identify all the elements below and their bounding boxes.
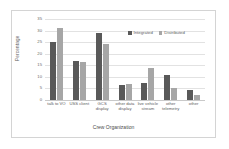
x-axis-tick-label: USS client [68, 101, 91, 112]
x-axis-tick-label: other data display [114, 101, 137, 112]
legend-swatch-icon [159, 31, 163, 35]
legend-label: Integrated [134, 31, 153, 35]
bar-integrated[interactable] [50, 42, 56, 100]
y-axis-tick-label: 25 [37, 40, 42, 44]
legend-entry[interactable]: Integrated [128, 31, 153, 35]
bar-distributed[interactable] [194, 95, 200, 100]
y-axis-tick-label: 15 [37, 63, 42, 67]
y-axis-tick-label: 35 [37, 17, 42, 21]
y-axis-title: Percentage [16, 36, 21, 62]
x-axis-tick-label: talk to VO [45, 101, 68, 112]
y-axis-tick-label: 30 [37, 28, 42, 32]
bar-integrated[interactable] [164, 75, 170, 100]
bar-integrated[interactable] [141, 83, 147, 100]
bar-group [91, 19, 114, 100]
chart-legend: IntegratedDistributed [128, 31, 185, 35]
y-axis-tick-label: 10 [37, 75, 42, 79]
bar-distributed[interactable] [57, 28, 63, 100]
bar-distributed[interactable] [126, 84, 132, 100]
bar-group [45, 19, 68, 100]
bar-integrated[interactable] [96, 33, 102, 100]
x-axis-tick-labels: talk to VOUSS clientGCS displayother dat… [45, 101, 205, 112]
x-axis-title: Crew Organization [12, 125, 215, 130]
bar-distributed[interactable] [171, 88, 177, 100]
bar-group [182, 19, 205, 100]
legend-swatch-icon [128, 31, 132, 35]
bar-distributed[interactable] [103, 44, 109, 100]
y-axis-tick-label: 0 [40, 98, 42, 102]
bar-integrated[interactable] [73, 61, 79, 100]
bar-distributed[interactable] [80, 62, 86, 100]
bar-distributed[interactable] [148, 68, 154, 100]
bar-integrated[interactable] [187, 90, 193, 100]
x-axis-tick-label: GCS display [91, 101, 114, 112]
legend-label: Distributed [164, 31, 185, 35]
bar-integrated[interactable] [119, 85, 125, 100]
x-axis-tick-label: other telemetry [159, 101, 182, 112]
y-axis-tick-label: 5 [40, 86, 42, 90]
x-axis-tick-label: other [182, 101, 205, 112]
x-axis-tick-label: live vehicle stream [136, 101, 159, 112]
y-axis-tick-label: 20 [37, 52, 42, 56]
bar-group [68, 19, 91, 100]
bar-chart-card: Percentage 05101520253035 talk to VOUSS … [11, 10, 216, 138]
legend-entry[interactable]: Distributed [159, 31, 185, 35]
